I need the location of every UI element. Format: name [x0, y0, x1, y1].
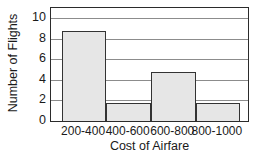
y-axis-tick-label: 8 [26, 32, 46, 44]
plot-area [50, 7, 249, 122]
bar [151, 72, 196, 121]
y-axis-tick-label: 10 [26, 11, 46, 23]
histogram-chart: Number of Flights 0246810 200-400400-600… [0, 0, 261, 157]
bars-container [51, 8, 248, 121]
bar [62, 31, 107, 121]
x-axis-tick-labels: 200-400400-600600-800800-1000 [50, 124, 249, 140]
y-axis-title: Number of Flights [6, 3, 20, 123]
x-axis-tick-label: 800-1000 [189, 124, 246, 138]
y-axis-tick-label: 6 [26, 52, 46, 64]
y-axis-tick-label: 0 [26, 114, 46, 126]
y-axis-tick-labels: 0246810 [24, 0, 46, 157]
y-axis-tick-label: 2 [26, 93, 46, 105]
bar [106, 103, 151, 121]
bar [196, 103, 241, 121]
y-axis-tick-label: 4 [26, 73, 46, 85]
x-axis-title: Cost of Airfare [50, 139, 249, 153]
